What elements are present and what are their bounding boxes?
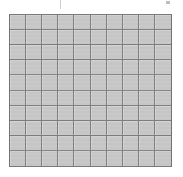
grid-cell[interactable] bbox=[26, 106, 42, 121]
grid-cell[interactable] bbox=[155, 75, 171, 90]
grid-cell[interactable] bbox=[139, 106, 155, 121]
grid-cell[interactable] bbox=[74, 91, 90, 106]
grid-cell[interactable] bbox=[74, 106, 90, 121]
grid-cell[interactable] bbox=[26, 45, 42, 60]
grid-cell[interactable] bbox=[139, 60, 155, 75]
grid-cell[interactable] bbox=[42, 30, 58, 45]
grid-cell[interactable] bbox=[26, 15, 42, 30]
grid-cell[interactable] bbox=[26, 30, 42, 45]
grid-cell[interactable] bbox=[155, 106, 171, 121]
grid-cell[interactable] bbox=[91, 15, 107, 30]
grid-cell[interactable] bbox=[91, 136, 107, 151]
grid-cell[interactable] bbox=[107, 121, 123, 136]
grid-cell[interactable] bbox=[107, 136, 123, 151]
grid-cell[interactable] bbox=[10, 60, 26, 75]
grid-cell[interactable] bbox=[123, 136, 139, 151]
grid-cell[interactable] bbox=[10, 121, 26, 136]
grid-cell[interactable] bbox=[42, 136, 58, 151]
grid-cell[interactable] bbox=[91, 75, 107, 90]
grid-cell[interactable] bbox=[10, 136, 26, 151]
grid-cell[interactable] bbox=[58, 106, 74, 121]
grid-cell[interactable] bbox=[42, 45, 58, 60]
grid-cell[interactable] bbox=[26, 60, 42, 75]
grid-cell[interactable] bbox=[26, 151, 42, 166]
grid-cell[interactable] bbox=[123, 121, 139, 136]
grid-cell[interactable] bbox=[74, 60, 90, 75]
grid-cell[interactable] bbox=[91, 60, 107, 75]
grid-cell[interactable] bbox=[123, 60, 139, 75]
grid-cell[interactable] bbox=[10, 30, 26, 45]
grid-cell[interactable] bbox=[58, 151, 74, 166]
grid-cell[interactable] bbox=[155, 30, 171, 45]
grid-cell[interactable] bbox=[123, 15, 139, 30]
grid-cell[interactable] bbox=[107, 91, 123, 106]
grid-cell[interactable] bbox=[42, 121, 58, 136]
grid-cell[interactable] bbox=[10, 15, 26, 30]
grid-cell[interactable] bbox=[107, 15, 123, 30]
grid-cell[interactable] bbox=[42, 91, 58, 106]
grid-cell[interactable] bbox=[74, 121, 90, 136]
grid-cell[interactable] bbox=[26, 136, 42, 151]
grid-cell[interactable] bbox=[91, 45, 107, 60]
grid-cell[interactable] bbox=[155, 15, 171, 30]
grid-cell[interactable] bbox=[139, 121, 155, 136]
grid-cell[interactable] bbox=[10, 106, 26, 121]
grid-cell[interactable] bbox=[91, 106, 107, 121]
grid-cell[interactable] bbox=[107, 75, 123, 90]
grid-cell[interactable] bbox=[91, 91, 107, 106]
grid-cell[interactable] bbox=[91, 30, 107, 45]
grid-cell[interactable] bbox=[10, 45, 26, 60]
grid-cell[interactable] bbox=[123, 75, 139, 90]
grid-cell[interactable] bbox=[74, 136, 90, 151]
grid-cell[interactable] bbox=[10, 75, 26, 90]
grid-cell[interactable] bbox=[107, 30, 123, 45]
grid-cell[interactable] bbox=[26, 91, 42, 106]
grid-cell[interactable] bbox=[42, 60, 58, 75]
grid-cell[interactable] bbox=[107, 106, 123, 121]
grid-cell[interactable] bbox=[155, 45, 171, 60]
grid-cell[interactable] bbox=[58, 15, 74, 30]
grid-cell[interactable] bbox=[123, 91, 139, 106]
grid-cell[interactable] bbox=[107, 60, 123, 75]
grid-cell[interactable] bbox=[74, 75, 90, 90]
grid-cell[interactable] bbox=[74, 45, 90, 60]
grid-cell[interactable] bbox=[123, 106, 139, 121]
grid-cell[interactable] bbox=[123, 30, 139, 45]
grid-cell[interactable] bbox=[139, 75, 155, 90]
grid-cell[interactable] bbox=[58, 136, 74, 151]
grid-cell[interactable] bbox=[58, 30, 74, 45]
grid-cell[interactable] bbox=[74, 15, 90, 30]
grid-cell[interactable] bbox=[123, 45, 139, 60]
grid-cell[interactable] bbox=[139, 15, 155, 30]
grid-cell[interactable] bbox=[58, 45, 74, 60]
grid-cell[interactable] bbox=[139, 136, 155, 151]
grid-cell[interactable] bbox=[155, 121, 171, 136]
grid-cell[interactable] bbox=[42, 75, 58, 90]
grid-cell[interactable] bbox=[58, 91, 74, 106]
grid-cell[interactable] bbox=[58, 60, 74, 75]
grid-cell[interactable] bbox=[155, 136, 171, 151]
grid-cell[interactable] bbox=[139, 30, 155, 45]
grid-cell[interactable] bbox=[155, 91, 171, 106]
grid-cell[interactable] bbox=[58, 75, 74, 90]
grid-cell[interactable] bbox=[42, 15, 58, 30]
grid-cell[interactable] bbox=[139, 45, 155, 60]
grid-cell[interactable] bbox=[26, 121, 42, 136]
grid-cell[interactable] bbox=[10, 91, 26, 106]
grid-cell[interactable] bbox=[10, 151, 26, 166]
grid-cell[interactable] bbox=[42, 151, 58, 166]
grid-cell[interactable] bbox=[26, 75, 42, 90]
grid-cell[interactable] bbox=[74, 151, 90, 166]
grid-cell[interactable] bbox=[123, 151, 139, 166]
grid-cell[interactable] bbox=[139, 91, 155, 106]
grid-cell[interactable] bbox=[91, 121, 107, 136]
grid-cell[interactable] bbox=[42, 106, 58, 121]
grid-cell[interactable] bbox=[74, 30, 90, 45]
grid-cell[interactable] bbox=[107, 45, 123, 60]
grid-cell[interactable] bbox=[107, 151, 123, 166]
grid-cell[interactable] bbox=[155, 60, 171, 75]
grid-cell[interactable] bbox=[91, 151, 107, 166]
grid-cell[interactable] bbox=[155, 151, 171, 166]
grid-cell[interactable] bbox=[139, 151, 155, 166]
grid-cell[interactable] bbox=[58, 121, 74, 136]
